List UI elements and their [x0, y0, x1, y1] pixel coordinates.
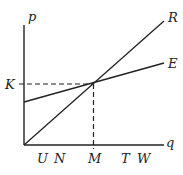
label-k: K — [4, 77, 16, 92]
label-n: N — [53, 151, 66, 166]
label-e: E — [167, 56, 178, 71]
label-q: q — [166, 135, 174, 150]
diagram-canvas: p q R E K U N M T W — [0, 0, 183, 175]
label-p: p — [28, 9, 37, 24]
label-w: W — [137, 151, 152, 166]
label-m: M — [87, 151, 102, 166]
label-r: R — [167, 10, 178, 25]
label-u: U — [37, 151, 49, 166]
label-t: T — [121, 151, 131, 166]
